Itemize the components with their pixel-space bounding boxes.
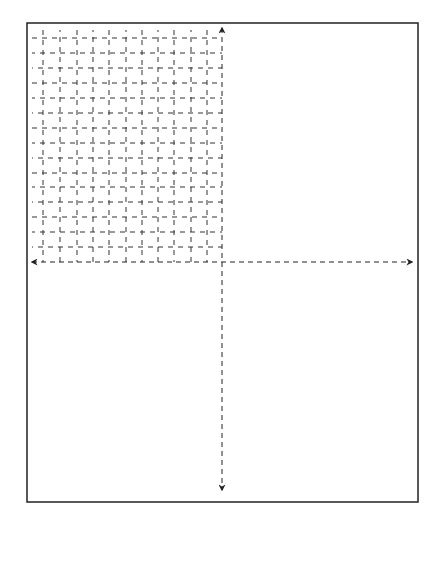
grid-lines: [32, 30, 222, 262]
dashed-grid-diagram: [0, 0, 442, 586]
